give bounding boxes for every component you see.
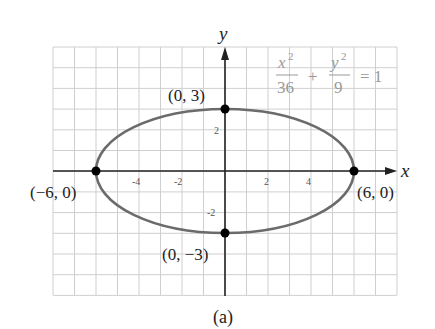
y-tick-neg2: -2 bbox=[207, 207, 215, 218]
x-axis-label: x bbox=[400, 160, 410, 181]
x-tick-neg4: -4 bbox=[132, 176, 140, 187]
ellipse-chart: (0, 3) (0, −3) (−6, 0) (6, 0) -4 -2 2 4 … bbox=[0, 0, 435, 329]
label-neg6-0: (−6, 0) bbox=[30, 183, 76, 202]
svg-text:+: + bbox=[308, 67, 318, 86]
svg-text:9: 9 bbox=[334, 78, 343, 97]
point-0-neg3 bbox=[221, 229, 230, 238]
svg-text:= 1: = 1 bbox=[360, 67, 382, 86]
svg-text:x: x bbox=[277, 53, 286, 72]
label-0-3: (0, 3) bbox=[168, 86, 205, 105]
caption: (a) bbox=[213, 307, 233, 328]
y-axis-label: y bbox=[217, 23, 228, 44]
point-neg6-0 bbox=[92, 167, 101, 176]
label-0-neg3: (0, −3) bbox=[162, 245, 208, 264]
x-tick-2: 2 bbox=[264, 176, 269, 187]
svg-text:2: 2 bbox=[288, 50, 294, 62]
y-axis-arrow-icon bbox=[221, 47, 229, 60]
svg-text:y: y bbox=[329, 53, 339, 72]
x-tick-neg2: -2 bbox=[174, 176, 182, 187]
point-0-3 bbox=[221, 105, 230, 114]
x-tick-4: 4 bbox=[306, 176, 311, 187]
label-6-0: (6, 0) bbox=[357, 183, 394, 202]
x-axis-arrow-icon bbox=[385, 167, 397, 175]
svg-text:2: 2 bbox=[341, 50, 347, 62]
point-6-0 bbox=[350, 167, 359, 176]
y-tick-2: 2 bbox=[214, 125, 219, 136]
equation: x 2 36 + y 2 9 = 1 bbox=[276, 50, 382, 97]
svg-text:36: 36 bbox=[277, 78, 294, 97]
